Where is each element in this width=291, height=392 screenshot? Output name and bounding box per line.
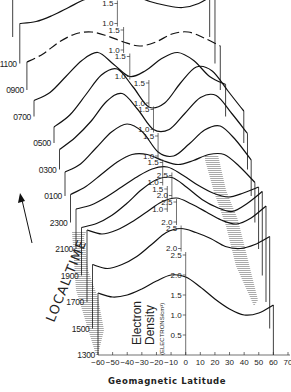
density-tick-label: 2.0: [171, 271, 183, 280]
density-tick-label: 1.0: [171, 311, 183, 320]
density-tick-label: 1.0: [152, 205, 164, 214]
x-tick-label: −50: [106, 358, 120, 367]
x-tick-label: −20: [150, 358, 164, 367]
y-axis-label-electron: Electron: [130, 301, 144, 345]
x-tick-label: 30: [225, 358, 234, 367]
density-tick-label: 1.0: [148, 178, 160, 187]
time-label-1500: 1500: [72, 324, 90, 334]
x-tick-label: 40: [240, 358, 249, 367]
density-tick-label: 0.5: [171, 331, 183, 340]
time-label-1100: 1100: [0, 59, 17, 69]
density-tick-label: 1.0: [108, 46, 120, 55]
time-label-1700: 1700: [66, 297, 84, 307]
y-axis-title: Electron Density (ELECTRONS/cm³): [130, 301, 165, 355]
axes-group: [98, 0, 290, 355]
x-tick-label: 20: [210, 358, 219, 367]
x-axis-title: Geomagnetic Latitude: [108, 376, 226, 386]
x-tick-label: 0: [183, 358, 188, 367]
density-tick-label: 1.0: [96, 0, 108, 2]
time-label-0700: 0700: [13, 112, 31, 122]
time-label-0900: 0900: [6, 85, 24, 95]
density-tick-label: 2.0: [166, 244, 178, 253]
x-tick-label: 60: [269, 358, 278, 367]
density-tick-label: 1.5: [134, 79, 146, 88]
time-label-2300: 2300: [50, 218, 68, 228]
x-tick-label: 50: [254, 358, 263, 367]
x-tick-label: 70: [284, 358, 291, 367]
time-label-0500: 0500: [33, 138, 51, 148]
x-tick-label: −10: [164, 358, 178, 367]
time-label-0300: 0300: [39, 165, 57, 175]
density-tick-label: 1.0: [102, 19, 114, 28]
y-axis-units: (ELECTRONS/cm³): [159, 303, 165, 355]
stacked-electron-density-figure: 13000.51.01.52.02.515002.02.517002.02.51…: [0, 0, 291, 392]
density-tick-label: 1.0: [115, 72, 127, 81]
local-time-arrow-head-icon: [18, 193, 25, 203]
y-axis-label-density: Density: [143, 305, 157, 345]
x-tick-label: −40: [120, 358, 134, 367]
density-tick-label: 1.0: [134, 99, 146, 108]
x-tick-label: 10: [196, 358, 205, 367]
local-time-arrow-shaft: [22, 200, 32, 243]
x-tick-label: −30: [135, 358, 149, 367]
x-tick-label: −60: [91, 358, 105, 367]
density-tick-label: 2.0: [161, 218, 173, 227]
density-tick-label: 1.0: [143, 152, 155, 161]
time-label-0100: 0100: [44, 191, 62, 201]
density-tick-label: 1.5: [171, 291, 183, 300]
density-tick-label: 1.0: [138, 125, 150, 134]
